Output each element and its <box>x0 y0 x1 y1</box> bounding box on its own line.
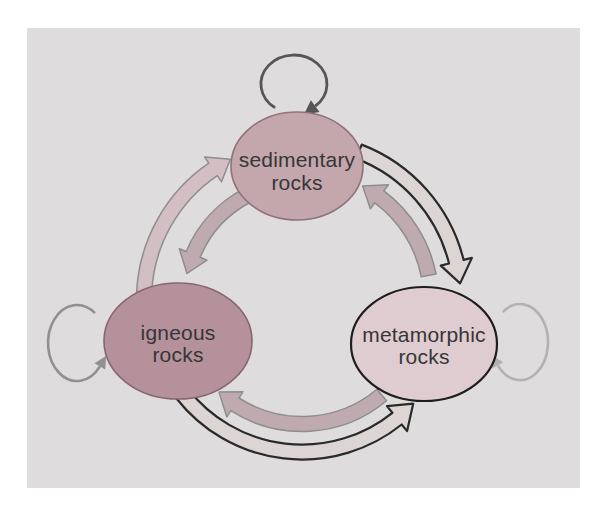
metamorphic-label-line1: metamorphic <box>362 323 486 346</box>
sedimentary-label-line2: rocks <box>271 171 322 194</box>
igneous-label-line1: igneous <box>141 321 216 344</box>
figure-canvas: sedimentary rocks igneous rocks metamorp… <box>0 0 606 516</box>
rock-cycle-diagram: sedimentary rocks igneous rocks metamorp… <box>0 0 606 516</box>
metamorphic-label-line2: rocks <box>398 345 449 368</box>
igneous-label-line2: rocks <box>152 343 203 366</box>
sedimentary-label-line1: sedimentary <box>239 148 356 171</box>
